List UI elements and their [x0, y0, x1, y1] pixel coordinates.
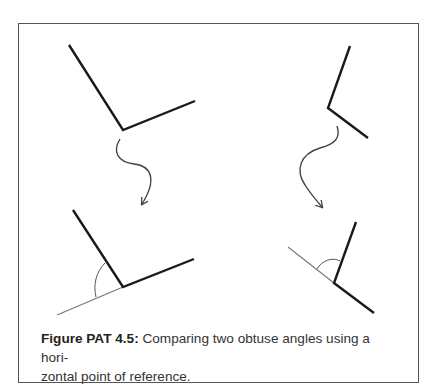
angle-top-left [69, 45, 195, 130]
reference-line-right [288, 247, 334, 283]
caption-line2: zontal point of reference. [41, 369, 191, 384]
angle-arc-right [317, 259, 340, 269]
angle-bottom-left [73, 210, 194, 287]
angle-arc-left [95, 263, 105, 297]
caption-label: Figure PAT 4.5: [41, 331, 139, 346]
arrow-left-icon [116, 139, 150, 204]
angle-bottom-right [334, 222, 374, 313]
arrow-right-icon [300, 126, 338, 207]
reference-line-left [57, 287, 123, 315]
figure-caption: Figure PAT 4.5: Comparing two obtuse ang… [41, 329, 391, 386]
angle-top-right [328, 46, 368, 138]
